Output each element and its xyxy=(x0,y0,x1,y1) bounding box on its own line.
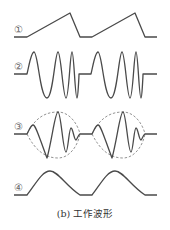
waveform-1-label: ① xyxy=(14,25,23,35)
waveform-3-modulated xyxy=(14,112,157,158)
waveform-1-sawtooth xyxy=(14,13,157,37)
waveform-svg xyxy=(0,0,170,230)
waveform-3-label: ③ xyxy=(14,122,23,132)
figure-caption: (b) 工作波形 xyxy=(0,206,170,220)
waveform-2-chirp xyxy=(14,52,157,98)
waveform-4-half-sine xyxy=(14,171,157,195)
waveform-4-label: ④ xyxy=(14,183,23,193)
waveform-2-label: ② xyxy=(14,62,23,72)
